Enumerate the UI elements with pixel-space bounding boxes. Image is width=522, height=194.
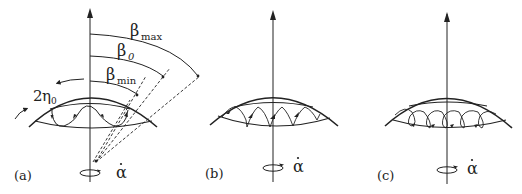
alpha-dot: [120, 163, 122, 165]
alpha-dot: [471, 159, 473, 161]
trajectory-arrow-icon: [248, 113, 253, 118]
beta-min-symbol: β: [106, 65, 115, 84]
beta-0-arc: [90, 56, 163, 76]
eta-top-arrow: [58, 79, 84, 83]
sphere-cap-outer: [385, 98, 512, 128]
ring-bottom: [35, 121, 152, 128]
ring-bottom: [393, 120, 506, 128]
eta-side-arrow: [15, 109, 26, 119]
beta-min-subscript: min: [117, 75, 137, 86]
beta-max-subscript: max: [141, 31, 162, 42]
diagram-canvas: β max β 0 β min 2 η 0 α (a) α (b): [0, 0, 522, 194]
beta-min-endpoint: [136, 94, 139, 97]
beta-0-subscript: 0: [128, 51, 135, 62]
panel-a: β max β 0 β min 2 η 0 α (a): [14, 8, 200, 183]
panel-label-b: (b): [205, 166, 223, 181]
axis-arrow-icon: [444, 12, 450, 22]
axis-arrow-icon: [87, 8, 93, 18]
eta-symbol: η: [42, 87, 51, 105]
axis-arrow-icon: [270, 10, 276, 20]
trajectory-arrow-icon: [294, 112, 299, 117]
panel-label-a: (a): [14, 168, 32, 183]
panel-c: α (c): [377, 12, 512, 184]
alpha-dot-symbol: α: [467, 159, 478, 178]
beta-0-symbol: β: [117, 41, 126, 60]
beta-max-endpoint: [197, 75, 200, 78]
trajectory-arrow-icon: [411, 123, 415, 127]
alpha-dot-symbol: α: [116, 163, 127, 182]
panel-label-c: (c): [377, 168, 394, 183]
alpha-dot-symbol: α: [293, 157, 304, 176]
eta-subscript: 0: [51, 96, 57, 106]
origin-dot: [95, 160, 98, 163]
beta-max-symbol: β: [130, 21, 139, 40]
ray-inner: [93, 100, 130, 162]
alpha-dot: [297, 157, 299, 159]
panel-b: α (b): [205, 10, 338, 182]
